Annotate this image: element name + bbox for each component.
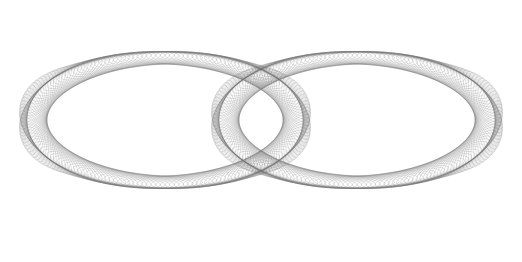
- right-loop-torus: [205, 47, 509, 192]
- left-loop-torus: [13, 47, 317, 192]
- double-torus-image: [0, 0, 522, 262]
- coil-wireframe-graphic: [0, 0, 522, 262]
